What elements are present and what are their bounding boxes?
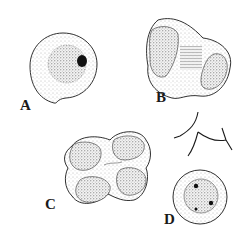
- panel-a: [30, 33, 97, 103]
- panel-b: [147, 19, 231, 99]
- panel-label-b: B: [156, 90, 166, 105]
- panel-d: [173, 112, 232, 224]
- panel-label-c: C: [45, 197, 56, 212]
- panel-label-d: D: [164, 212, 175, 227]
- figure-canvas: [0, 0, 243, 238]
- panel-label-a: A: [20, 98, 31, 113]
- figure: A B C D: [0, 0, 243, 238]
- panel-c: [65, 132, 151, 204]
